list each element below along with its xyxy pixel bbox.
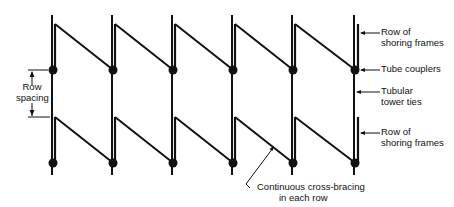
cross-bracing-line-1: Continuous cross-bracing bbox=[257, 182, 365, 193]
tower-ties-line-2: tower ties bbox=[381, 97, 422, 108]
tower-ties-line-1: Tubular bbox=[381, 86, 422, 97]
row-spacing-label: Row spacing bbox=[16, 82, 48, 103]
cross-bracing-top bbox=[55, 24, 354, 69]
diagram-canvas: Row spacing Row of shoring frames Tube c… bbox=[0, 0, 454, 207]
top-row-frames-line-2: shoring frames bbox=[381, 38, 444, 49]
top-row-frames-label: Row of shoring frames bbox=[381, 27, 444, 48]
cross-bracing-bottom bbox=[55, 117, 354, 162]
bottom-row-frames-line-1: Row of bbox=[381, 127, 444, 138]
top-row-frames-line-1: Row of bbox=[381, 27, 444, 38]
callout-leaders bbox=[356, 31, 380, 135]
tube-couplers bbox=[49, 66, 360, 168]
tube-couplers-label: Tube couplers bbox=[381, 64, 441, 75]
shoring-frame-legs-bottom bbox=[55, 117, 358, 163]
bottom-row-frames-line-2: shoring frames bbox=[381, 138, 444, 149]
cross-bracing-label: Continuous cross-bracing in each row bbox=[257, 182, 365, 203]
bottom-row-frames-label: Row of shoring frames bbox=[381, 127, 444, 148]
shoring-frame-legs-top bbox=[55, 24, 358, 70]
cross-bracing-line-2: in each row bbox=[257, 193, 365, 204]
row-spacing-line-1: Row bbox=[16, 82, 48, 93]
tubular-tower-ties-label: Tubular tower ties bbox=[381, 86, 422, 107]
row-spacing-line-2: spacing bbox=[16, 93, 48, 104]
